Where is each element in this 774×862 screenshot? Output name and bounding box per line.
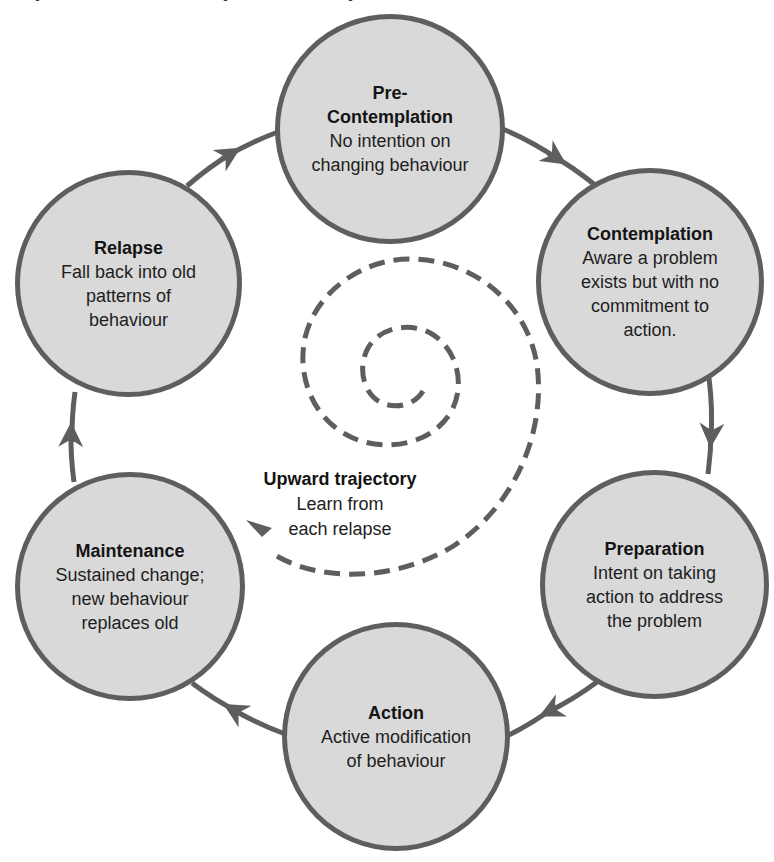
upward-trajectory-label: Upward trajectory Learn from each relaps… — [240, 467, 440, 542]
stage-description: new behaviour — [71, 587, 188, 611]
center-description: Learn from — [240, 492, 440, 517]
stage-relapse: Relapse Fall back into old patterns of b… — [15, 170, 242, 397]
stage-description: changing behaviour — [311, 153, 468, 177]
center-description: each relapse — [240, 517, 440, 542]
stage-description: action. — [623, 318, 676, 342]
stage-title: Preparation — [604, 537, 704, 561]
stage-title: Maintenance — [75, 539, 184, 563]
stage-maintenance: Maintenance Sustained change; new behavi… — [15, 472, 245, 701]
stage-title: Contemplation — [587, 222, 713, 246]
stage-description: patterns of — [86, 284, 171, 308]
stage-title: Contemplation — [327, 105, 453, 129]
stage-description: Sustained change; — [55, 563, 204, 587]
stage-description: Fall back into old — [61, 260, 196, 284]
stage-contemplation: Contemplation Aware a problem exists but… — [536, 168, 764, 396]
stage-description: replaces old — [81, 611, 178, 635]
stage-description: commitment to — [591, 294, 709, 318]
stage-description: Active modification — [321, 725, 471, 749]
center-title: Upward trajectory — [240, 467, 440, 492]
stage-description: the problem — [607, 609, 702, 633]
stage-description: of behaviour — [346, 749, 445, 773]
stage-title: Action — [368, 701, 424, 725]
stage-title: Relapse — [94, 236, 163, 260]
stage-action: Action Active modification of behaviour — [282, 622, 510, 851]
stage-description: Aware a problem — [582, 246, 718, 270]
stage-description: No intention on — [329, 129, 450, 153]
stage-preparation: Preparation Intent on taking action to a… — [540, 470, 769, 699]
stage-description: exists but with no — [581, 270, 719, 294]
stage-title: Pre- — [372, 81, 407, 105]
stage-pre-contemplation: Pre- Contemplation No intention on chang… — [275, 14, 505, 244]
stage-description: Intent on taking — [593, 561, 716, 585]
stage-description: behaviour — [89, 308, 168, 332]
stage-description: action to address — [586, 585, 723, 609]
